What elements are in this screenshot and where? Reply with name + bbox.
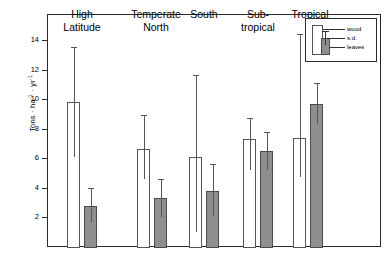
error-bar-wood-cap (141, 115, 147, 116)
error-bar-wood-cap (193, 75, 199, 76)
y-axis-title-mid: · yr (28, 80, 37, 94)
error-bar-wood-cap (71, 47, 77, 48)
legend-sd-line (325, 31, 326, 45)
y-axis-tick-label: 14 (0, 36, 39, 44)
error-bar-wood (144, 115, 145, 179)
legend-label-leaves-leader (330, 47, 345, 48)
error-bar-leaves-cap (314, 83, 320, 84)
legend-label-leaves: leaves (347, 44, 364, 50)
error-bar-leaves-cap (264, 132, 270, 133)
legend-label-wood-leader (323, 29, 345, 30)
error-bar-leaves (317, 83, 318, 124)
y-axis-tick-label: 10 (0, 95, 39, 103)
y-axis-tick-label: 12 (0, 66, 39, 74)
error-bar-leaves (91, 188, 92, 222)
error-bar-wood (250, 118, 251, 170)
error-bar-wood (300, 34, 301, 177)
error-bar-wood-cap (247, 118, 253, 119)
y-axis-tick-label: 6 (0, 154, 39, 162)
y-axis-tick-label: 4 (0, 184, 39, 192)
error-bar-leaves-cap (158, 179, 164, 180)
category-label-line: North (101, 21, 211, 34)
figure-container: Tons · ha-1 · yr-1 2468101214 HighLatitu… (0, 0, 390, 266)
category-label-line: tropical (203, 21, 313, 34)
y-axis-tick-label: 8 (0, 125, 39, 133)
error-bar-wood-cap (297, 34, 303, 35)
error-bar-leaves (267, 132, 268, 170)
error-bar-leaves (213, 164, 214, 216)
error-bar-wood (74, 47, 75, 156)
error-bar-leaves (161, 179, 162, 217)
legend-label-wood: wood (347, 26, 361, 32)
y-axis-title-exp2: -1 (27, 75, 33, 80)
bar-leaves (310, 104, 323, 248)
legend-sd-cap (322, 31, 329, 32)
error-bar-wood (196, 75, 197, 232)
error-bar-leaves-cap (210, 164, 216, 165)
y-axis-tick-label: 2 (0, 213, 39, 221)
legend-label-sd-leader (327, 38, 345, 39)
error-bar-leaves-cap (88, 188, 94, 189)
legend-label-sd: s.d. (347, 35, 357, 41)
